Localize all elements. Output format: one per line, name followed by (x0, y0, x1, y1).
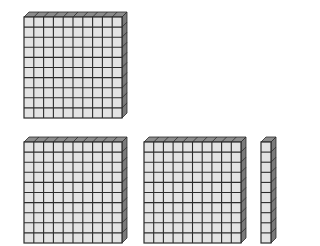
hundreds-flat-bottom-middle (143, 136, 247, 244)
tens-rod (260, 136, 277, 244)
hundreds-flat-bottom-left (23, 136, 128, 244)
hundreds-flat-top (23, 11, 128, 119)
